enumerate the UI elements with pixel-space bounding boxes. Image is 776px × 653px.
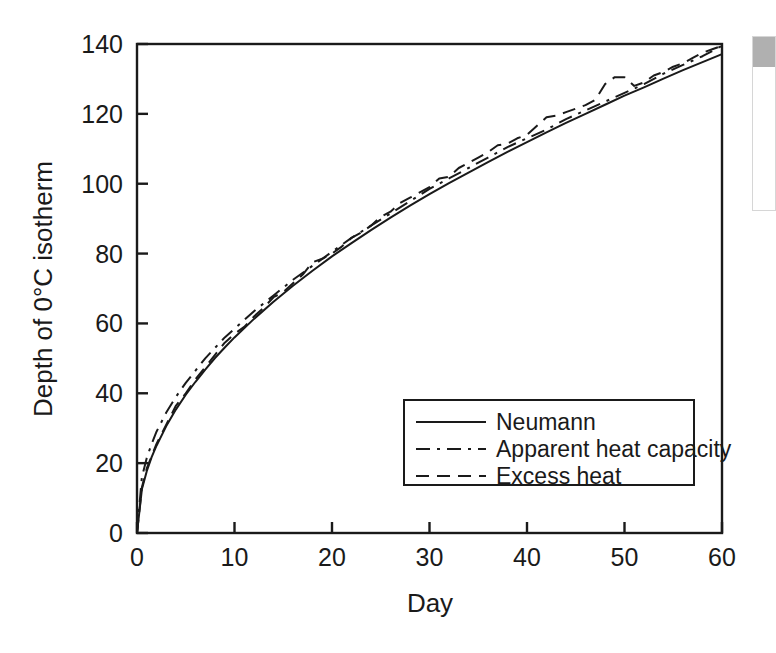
y-axis-title: Depth of 0°C isotherm <box>28 161 58 417</box>
x-tick-label: 30 <box>416 543 444 571</box>
y-tick-label: 140 <box>81 30 123 58</box>
y-tick-label: 40 <box>95 379 123 407</box>
x-tick-label: 50 <box>611 543 639 571</box>
chart-legend: NeumannApparent heat capacityExcess heat <box>404 400 732 489</box>
y-tick-label: 100 <box>81 170 123 198</box>
x-tick-label: 40 <box>513 543 541 571</box>
cut-off-side-panel-header <box>753 37 775 67</box>
x-tick-label: 10 <box>221 543 249 571</box>
legend-label: Apparent heat capacity <box>496 436 732 462</box>
y-tick-label: 20 <box>95 449 123 477</box>
x-axis-ticks <box>137 522 722 533</box>
cut-off-side-panel[interactable] <box>752 36 776 211</box>
x-tick-label: 20 <box>318 543 346 571</box>
x-tick-label: 0 <box>130 543 144 571</box>
y-axis-tick-labels: 020406080100120140 <box>81 30 123 547</box>
x-axis-tick-labels: 0102030405060 <box>130 543 736 571</box>
y-tick-label: 0 <box>109 519 123 547</box>
y-tick-label: 120 <box>81 100 123 128</box>
x-axis-title: Day <box>407 588 453 618</box>
y-tick-label: 80 <box>95 240 123 268</box>
legend-label: Excess heat <box>496 463 622 489</box>
legend-label: Neumann <box>496 409 596 435</box>
y-tick-label: 60 <box>95 309 123 337</box>
x-tick-label: 60 <box>708 543 736 571</box>
